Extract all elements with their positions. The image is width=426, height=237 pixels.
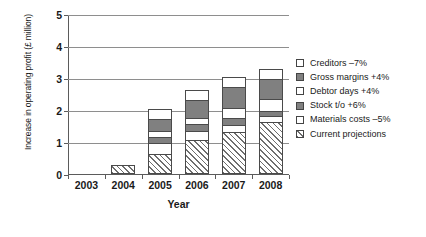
- gridline: [68, 143, 289, 144]
- y-tick-mark: [64, 143, 68, 144]
- bar-segment: [185, 100, 209, 119]
- bar-segment: [259, 79, 283, 99]
- y-tick-label: 3: [46, 74, 62, 85]
- y-tick-label: 1: [46, 138, 62, 149]
- x-tick-mark: [68, 175, 69, 179]
- x-tick-label-2003: 2003: [66, 180, 106, 191]
- bar-segment: [148, 109, 172, 119]
- bar-segment: [148, 143, 172, 154]
- gridline: [68, 15, 289, 16]
- x-tick-mark: [215, 175, 216, 179]
- bar-segment: [222, 87, 246, 109]
- legend-item[interactable]: Creditors –7%: [296, 56, 426, 70]
- bar-segment: [222, 108, 246, 118]
- bar-segment: [259, 99, 283, 111]
- y-axis-line: [68, 15, 69, 176]
- bar-segment: [222, 118, 246, 125]
- y-tick-label: 0: [46, 170, 62, 181]
- legend-swatch-icon: [296, 102, 304, 110]
- gridline: [68, 111, 289, 112]
- legend-item[interactable]: Gross margins +4%: [296, 70, 426, 84]
- bar-segment: [259, 69, 283, 79]
- x-tick-mark: [105, 175, 106, 179]
- chart-legend: Creditors –7%Gross margins +4%Debtor day…: [296, 56, 426, 141]
- bar-segment: [185, 124, 209, 131]
- bar-segment: [185, 131, 209, 140]
- legend-item[interactable]: Current projections: [296, 127, 426, 141]
- gridline: [68, 47, 289, 48]
- legend-label: Stock t/o +6%: [310, 101, 366, 110]
- bar-segment: [185, 140, 209, 174]
- x-tick-label-2006: 2006: [177, 180, 217, 191]
- bar-segment: [222, 77, 246, 87]
- bar-segment: [259, 122, 283, 174]
- bar-segment: [222, 132, 246, 174]
- y-tick-mark: [64, 111, 68, 112]
- legend-label: Debtor days +4%: [310, 87, 379, 96]
- legend-label: Creditors –7%: [310, 59, 367, 68]
- legend-swatch-icon: [296, 73, 304, 81]
- x-tick-label-2005: 2005: [140, 180, 180, 191]
- x-tick-mark: [289, 175, 290, 179]
- legend-label: Gross margins +4%: [310, 73, 389, 82]
- chart-figure: Increase in operating profit (£ million)…: [0, 0, 426, 237]
- y-tick-mark: [64, 79, 68, 80]
- x-tick-mark: [142, 175, 143, 179]
- bar-stack-2008: [259, 69, 283, 174]
- x-tick-label-2004: 2004: [103, 180, 143, 191]
- y-axis-title: Increase in operating profit (£ million): [23, 2, 33, 162]
- y-tick-label: 2: [46, 106, 62, 117]
- y-tick-mark: [64, 15, 68, 16]
- bar-stack-2005: [148, 109, 172, 174]
- legend-swatch-icon: [296, 59, 304, 67]
- legend-item[interactable]: Materials costs –5%: [296, 113, 426, 127]
- x-tick-label-2008: 2008: [251, 180, 291, 191]
- y-tick-label: 4: [46, 42, 62, 53]
- bar-stack-2004: [111, 165, 135, 174]
- y-tick-label: 5: [46, 10, 62, 21]
- x-tick-mark: [179, 175, 180, 179]
- gridline: [68, 79, 289, 80]
- bar-stack-2006: [185, 90, 209, 174]
- legend-swatch-icon: [296, 116, 304, 124]
- bar-segment: [111, 165, 135, 174]
- bar-segment: [148, 119, 172, 132]
- x-axis-title: Year: [68, 198, 289, 210]
- plot-area: 012345: [68, 15, 289, 175]
- legend-label: Materials costs –5%: [310, 115, 391, 124]
- legend-item[interactable]: Debtor days +4%: [296, 84, 426, 98]
- x-tick-label-2007: 2007: [214, 180, 254, 191]
- y-tick-mark: [64, 47, 68, 48]
- legend-item[interactable]: Stock t/o +6%: [296, 99, 426, 113]
- bar-stack-2007: [222, 77, 246, 174]
- legend-label: Current projections: [310, 130, 386, 139]
- x-tick-mark: [252, 175, 253, 179]
- legend-swatch-icon: [296, 87, 304, 95]
- legend-swatch-icon: [296, 130, 304, 138]
- bar-segment: [185, 90, 209, 100]
- bar-segment: [148, 154, 172, 174]
